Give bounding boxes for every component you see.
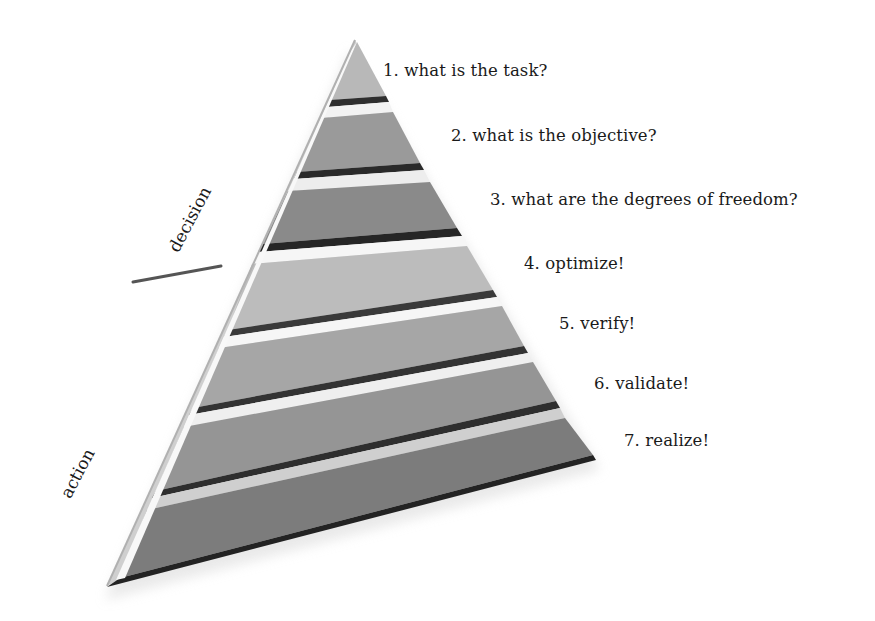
decision-action-divider <box>133 266 221 282</box>
step-7-label: 7. realize! <box>624 431 709 450</box>
pyramid-diagram: 1. what is the task? 2. what is the obje… <box>0 0 875 621</box>
step-2-label: 2. what is the objective? <box>451 126 657 145</box>
pyramid-graphic <box>0 0 875 621</box>
step-6-label: 6. validate! <box>594 374 689 393</box>
step-5-label: 5. verify! <box>559 314 635 333</box>
pyramid-bands <box>107 42 596 587</box>
step-4-label: 4. optimize! <box>524 254 625 273</box>
step-3-label: 3. what are the degrees of freedom? <box>490 190 798 209</box>
band-2 <box>297 112 420 172</box>
step-1-label: 1. what is the task? <box>383 61 548 80</box>
band-1 <box>330 42 386 100</box>
